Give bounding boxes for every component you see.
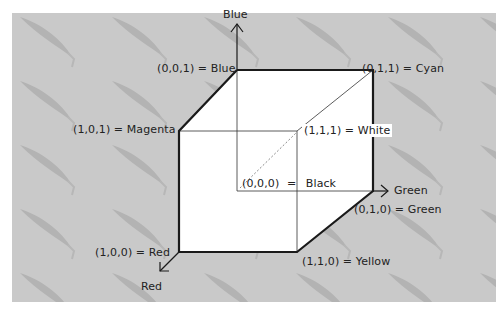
black-name: Black <box>306 177 336 190</box>
vertex-label-black: (0,0,0) = Black <box>240 177 338 190</box>
vertex-label-cyan: (0,1,1) = Cyan <box>362 62 444 75</box>
rgb-cube-diagram: Blue Green Red (0,0,1) = Blue (0,1,1) = … <box>0 0 504 313</box>
vertex-label-red: (1,0,0) = Red <box>95 246 170 259</box>
red-axis-label: Red <box>141 280 162 293</box>
vertex-label-green: (0,1,0) = Green <box>354 203 442 216</box>
black-coord: (0,0,0) <box>242 177 279 190</box>
diagram-canvas <box>0 0 504 313</box>
blue-axis-label: Blue <box>223 8 248 21</box>
vertex-label-yellow: (1,1,0) = Yellow <box>302 255 390 268</box>
vertex-label-magenta: (1,0,1) = Magenta <box>73 123 176 136</box>
vertex-label-white: (1,1,1) = White <box>302 124 392 137</box>
vertex-label-blue: (0,0,1) = Blue <box>157 62 236 75</box>
black-equals: = <box>287 177 296 190</box>
green-axis-label: Green <box>394 184 428 197</box>
